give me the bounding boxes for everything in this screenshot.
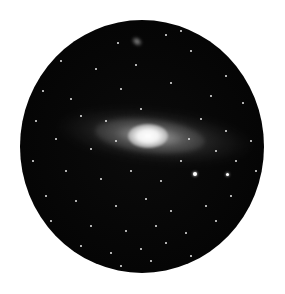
star [235,160,237,162]
star [125,230,127,232]
star [210,95,212,97]
star [135,64,137,66]
star [115,140,117,142]
star [242,102,244,104]
star [130,170,132,172]
star [90,148,92,150]
star [140,248,142,250]
star [188,138,190,140]
star [55,138,57,140]
star [65,170,67,172]
star [45,195,47,197]
star [225,75,227,77]
star [110,252,112,254]
star [120,265,122,267]
star [42,90,44,92]
star [100,178,102,180]
star [60,60,62,62]
star [50,220,52,222]
star [145,198,147,200]
star [105,120,107,122]
star [70,98,72,100]
star [215,150,217,152]
star [35,120,37,122]
star [150,260,152,262]
star [225,130,227,132]
star [170,82,172,84]
star [75,200,77,202]
star [190,255,192,257]
star [90,225,92,227]
companion-galaxy [130,34,145,48]
star [115,205,117,207]
star [250,140,252,142]
star [160,180,162,182]
bright-star [193,172,197,176]
galaxy-core [128,124,168,148]
star [95,68,97,70]
star [200,118,202,120]
star [50,32,52,34]
bright-star [226,173,229,176]
star [180,30,182,32]
star [215,220,217,222]
star [165,242,167,244]
star [205,205,207,207]
star [170,210,172,212]
star [78,30,80,32]
telescope-view [20,20,264,273]
star [117,42,119,44]
star [32,160,34,162]
star [140,108,142,110]
star [185,232,187,234]
star [180,160,182,162]
star [190,50,192,52]
star [80,245,82,247]
star [255,170,257,172]
star [165,34,167,36]
star [155,225,157,227]
star [80,115,82,117]
star [120,88,122,90]
star [230,195,232,197]
